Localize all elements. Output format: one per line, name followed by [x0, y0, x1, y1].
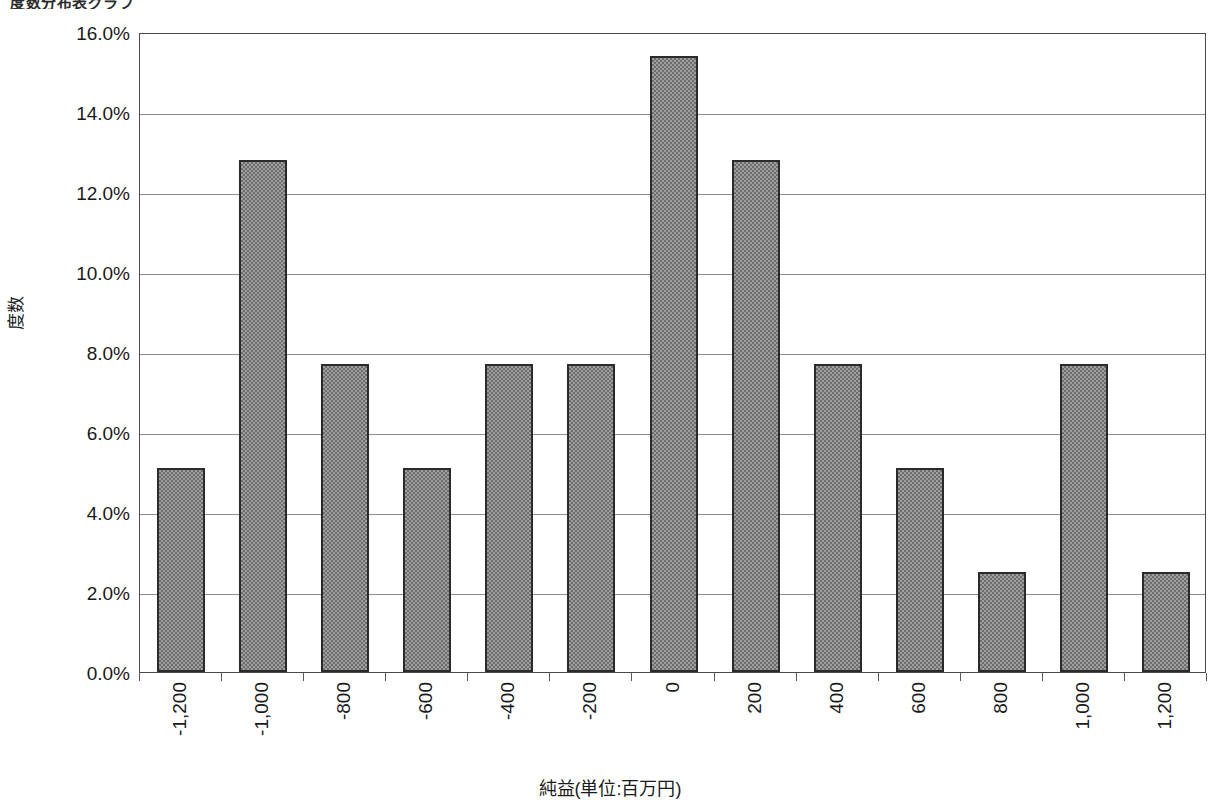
y-axis-tick-label: 12.0% [34, 184, 130, 203]
x-axis-tick [714, 673, 715, 681]
x-axis-tick [467, 673, 468, 681]
y-axis-title: 度数 [2, 278, 27, 348]
x-axis-tick-label: 0 [662, 682, 684, 768]
x-axis-tick [385, 673, 386, 681]
x-axis-tick [1042, 673, 1043, 681]
x-axis-tick [221, 673, 222, 681]
y-axis-tick-label: 10.0% [34, 264, 130, 283]
bar [978, 572, 1026, 672]
y-axis-tick-label: 4.0% [34, 504, 130, 523]
bar [650, 56, 698, 672]
x-axis-tick-label: -800 [333, 682, 355, 768]
y-axis-tick-label: 6.0% [34, 424, 130, 443]
x-axis-tick-label: -200 [579, 682, 601, 768]
bar [1060, 364, 1108, 672]
x-axis-tick-label: 1,200 [1154, 682, 1176, 768]
y-axis-tick-label: 14.0% [34, 104, 130, 123]
bar [814, 364, 862, 672]
x-axis-tick-label: -600 [415, 682, 437, 768]
x-axis-tick-label: -400 [497, 682, 519, 768]
x-axis-tick [878, 673, 879, 681]
plot-area [139, 33, 1206, 673]
bar [157, 468, 205, 672]
clipped-chart-title: 度数分布表グラフ [10, 0, 134, 9]
x-axis-tick [1206, 673, 1207, 681]
bar [485, 364, 533, 672]
x-axis-tick-label: 200 [744, 682, 766, 768]
bar [732, 160, 780, 672]
y-axis-tick-label: 16.0% [34, 24, 130, 43]
x-axis-tick-label: -1,200 [169, 682, 191, 768]
x-axis-tick [631, 673, 632, 681]
x-axis-tick-label: -1,000 [251, 682, 273, 768]
y-axis-tick-label: 2.0% [34, 584, 130, 603]
y-axis-tick-labels: 0.0%2.0%4.0%6.0%8.0%10.0%12.0%14.0%16.0% [34, 33, 130, 673]
bar [321, 364, 369, 672]
y-axis-tick-label: 8.0% [34, 344, 130, 363]
bar [403, 468, 451, 672]
x-axis-tick [303, 673, 304, 681]
x-axis-tick [1124, 673, 1125, 681]
x-axis-tick-label: 400 [826, 682, 848, 768]
histogram-chart: 度数分布表グラフ 度数 0.0%2.0%4.0%6.0%8.0%10.0%12.… [0, 0, 1220, 807]
x-axis-tick [796, 673, 797, 681]
bar [239, 160, 287, 672]
x-axis-tick-labels: -1,200-1,000-800-600-400-200020040060080… [139, 682, 1206, 768]
x-axis-tick-label: 600 [908, 682, 930, 768]
x-axis-tick [549, 673, 550, 681]
x-axis-tick-label: 800 [990, 682, 1012, 768]
x-axis-tick [960, 673, 961, 681]
x-axis-tick [139, 673, 140, 681]
x-axis-ticks [139, 673, 1206, 682]
bar [567, 364, 615, 672]
y-axis-tick-label: 0.0% [34, 664, 130, 683]
bar [896, 468, 944, 672]
bars-layer [140, 34, 1205, 672]
x-axis-tick-label: 1,000 [1072, 682, 1094, 768]
x-axis-title: 純益(単位:百万円) [0, 774, 1220, 800]
bar [1142, 572, 1190, 672]
